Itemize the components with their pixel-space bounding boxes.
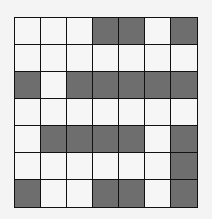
grid-cell-r6-c3[interactable] <box>93 180 119 207</box>
grid-cell-r4-c3[interactable] <box>93 126 119 153</box>
grid-cell-r5-c5[interactable] <box>145 153 171 180</box>
grid-cell-r2-c3[interactable] <box>93 72 119 99</box>
grid-cell-r2-c4[interactable] <box>119 72 145 99</box>
grid-cell-r4-c1[interactable] <box>41 126 67 153</box>
grid-cell-r1-c5[interactable] <box>145 45 171 72</box>
grid-cell-r4-c0[interactable] <box>15 126 41 153</box>
grid-cell-r6-c1[interactable] <box>41 180 67 207</box>
grid-cell-r0-c6[interactable] <box>171 18 197 45</box>
grid-cell-r1-c1[interactable] <box>41 45 67 72</box>
grid-cell-r0-c1[interactable] <box>41 18 67 45</box>
grid-cell-r2-c6[interactable] <box>171 72 197 99</box>
grid-cell-r1-c0[interactable] <box>15 45 41 72</box>
grid-cell-r2-c0[interactable] <box>15 72 41 99</box>
grid-cell-r4-c5[interactable] <box>145 126 171 153</box>
grid-cell-r5-c2[interactable] <box>67 153 93 180</box>
grid-cell-r6-c5[interactable] <box>145 180 171 207</box>
grid-cell-r6-c6[interactable] <box>171 180 197 207</box>
grid-cell-r1-c3[interactable] <box>93 45 119 72</box>
grid-cell-r4-c4[interactable] <box>119 126 145 153</box>
grid-cell-r5-c6[interactable] <box>171 153 197 180</box>
grid-cell-r5-c0[interactable] <box>15 153 41 180</box>
grid-cell-r5-c1[interactable] <box>41 153 67 180</box>
grid-cell-r1-c4[interactable] <box>119 45 145 72</box>
grid-cell-r3-c1[interactable] <box>41 99 67 126</box>
grid-cell-r5-c3[interactable] <box>93 153 119 180</box>
grid-cell-r0-c0[interactable] <box>15 18 41 45</box>
grid-cell-r3-c2[interactable] <box>67 99 93 126</box>
grid-cell-r1-c6[interactable] <box>171 45 197 72</box>
grid-cell-r3-c0[interactable] <box>15 99 41 126</box>
grid-cell-r6-c4[interactable] <box>119 180 145 207</box>
puzzle-grid <box>14 17 198 208</box>
grid-cell-r0-c5[interactable] <box>145 18 171 45</box>
grid-cell-r2-c5[interactable] <box>145 72 171 99</box>
grid-cell-r0-c4[interactable] <box>119 18 145 45</box>
grid-cell-r0-c3[interactable] <box>93 18 119 45</box>
grid-cell-r4-c2[interactable] <box>67 126 93 153</box>
grid-cell-r3-c3[interactable] <box>93 99 119 126</box>
grid-cell-r1-c2[interactable] <box>67 45 93 72</box>
grid-cell-r6-c2[interactable] <box>67 180 93 207</box>
grid-cell-r3-c6[interactable] <box>171 99 197 126</box>
grid-cell-r6-c0[interactable] <box>15 180 41 207</box>
grid-cell-r2-c1[interactable] <box>41 72 67 99</box>
grid-cell-r3-c4[interactable] <box>119 99 145 126</box>
grid-cell-r5-c4[interactable] <box>119 153 145 180</box>
grid-cell-r3-c5[interactable] <box>145 99 171 126</box>
grid-cell-r4-c6[interactable] <box>171 126 197 153</box>
grid-cell-r0-c2[interactable] <box>67 18 93 45</box>
grid-cell-r2-c2[interactable] <box>67 72 93 99</box>
